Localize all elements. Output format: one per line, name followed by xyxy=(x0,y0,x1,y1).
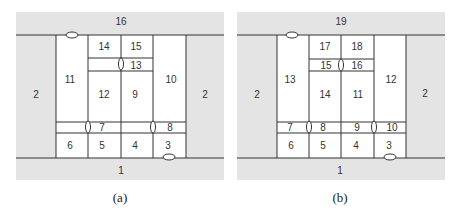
zone-label-right: 2 xyxy=(202,89,208,100)
panel-caption: (b) xyxy=(332,190,347,205)
door-icon xyxy=(151,121,156,133)
zone-label-left: 2 xyxy=(33,89,39,100)
door-icon xyxy=(384,154,396,160)
door-icon xyxy=(163,154,175,160)
zone-label-top: 19 xyxy=(335,16,347,27)
room-label: 10 xyxy=(165,74,177,85)
floor-plan-panel-b: 19 1 2 2 17 18 15 16 13 14 11 12 7 8 9 1… xyxy=(230,0,460,214)
room-label: 6 xyxy=(288,140,294,151)
room-label: 4 xyxy=(132,140,138,151)
room-label: 9 xyxy=(354,122,360,133)
zone-label-bottom: 1 xyxy=(118,165,124,176)
room-label: 14 xyxy=(98,41,110,52)
door-icon xyxy=(307,121,312,133)
room-label: 11 xyxy=(353,89,364,100)
room-label: 9 xyxy=(132,89,138,100)
door-icon xyxy=(286,32,298,38)
room-label: 13 xyxy=(284,74,296,85)
zone-label-top: 16 xyxy=(115,16,127,27)
room-label: 7 xyxy=(99,122,105,133)
room-label: 16 xyxy=(351,60,363,71)
room-label: 3 xyxy=(386,140,392,151)
room-label: 5 xyxy=(99,140,105,151)
room-label: 3 xyxy=(165,140,171,151)
room-label: 14 xyxy=(319,89,331,100)
floor-plan-b: 19 1 2 2 17 18 15 16 13 14 11 12 7 8 9 1… xyxy=(230,0,460,214)
zone-label-bottom: 1 xyxy=(337,165,343,176)
room-label: 7 xyxy=(287,122,293,133)
door-icon xyxy=(372,121,377,133)
room-label: 6 xyxy=(67,140,73,151)
door-icon xyxy=(119,58,124,70)
room-label: 8 xyxy=(320,122,326,133)
zone-label-left: 2 xyxy=(254,89,260,100)
panel-caption: (a) xyxy=(113,190,127,205)
room-label: 10 xyxy=(386,122,398,133)
room-label: 4 xyxy=(353,140,359,151)
zone-label-right: 2 xyxy=(422,88,428,99)
door-icon xyxy=(86,121,91,133)
room-label: 15 xyxy=(130,41,142,52)
floor-plan-panel-a: 16 1 2 2 14 15 13 11 12 9 10 7 8 6 5 4 3… xyxy=(0,0,230,214)
room-label: 18 xyxy=(351,41,363,52)
door-icon xyxy=(66,32,78,38)
room-label: 12 xyxy=(385,74,397,85)
floor-plan-a: 16 1 2 2 14 15 13 11 12 9 10 7 8 6 5 4 3… xyxy=(0,0,230,214)
room-label: 11 xyxy=(65,74,76,85)
room-label: 12 xyxy=(98,89,110,100)
door-icon xyxy=(339,59,344,71)
room-label: 17 xyxy=(319,41,331,52)
room-label: 15 xyxy=(320,60,332,71)
room-label: 5 xyxy=(320,140,326,151)
room-label: 8 xyxy=(167,122,173,133)
room-label: 13 xyxy=(130,60,142,71)
